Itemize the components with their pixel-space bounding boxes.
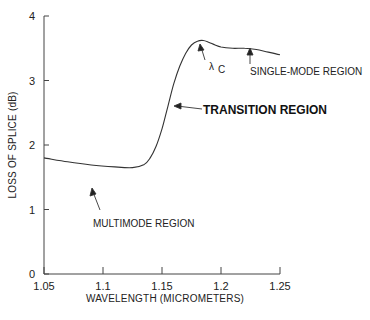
y-axis-label: LOSS OF SPLICE (dB) — [7, 91, 18, 198]
multimode-region-label: MULTIMODE REGION — [93, 218, 194, 229]
arrowhead-icon — [198, 44, 204, 51]
chart-canvas: 01234 1.051.11.151.21.25 LOSS OF SPLICE … — [0, 0, 370, 320]
x-tick-label: 1.15 — [151, 280, 172, 292]
arrowhead-icon — [90, 188, 96, 196]
y-tick-label: 4 — [29, 10, 35, 22]
y-tick-label: 0 — [29, 268, 35, 280]
y-tick-label: 1 — [29, 204, 35, 216]
y-ticks: 01234 — [29, 10, 49, 280]
transition-region-label: TRANSITION REGION — [203, 103, 327, 117]
arrowhead-icon — [174, 103, 181, 109]
x-axis-label: WAVELENGTH (MICROMETERS) — [86, 293, 244, 304]
annotation-arrows — [90, 44, 253, 210]
lambda-subscript: C — [218, 64, 225, 75]
x-tick-label: 1.05 — [33, 280, 54, 292]
x-tick-label: 1.1 — [95, 280, 110, 292]
x-tick-label: 1.2 — [213, 280, 228, 292]
y-tick-label: 3 — [29, 75, 35, 87]
x-ticks: 1.051.11.151.21.25 — [33, 267, 290, 292]
y-tick-label: 2 — [29, 139, 35, 151]
single-mode-region-label: SINGLE-MODE REGION — [250, 66, 362, 77]
axes — [44, 16, 280, 274]
x-tick-label: 1.25 — [269, 280, 290, 292]
lambda-symbol: λ — [209, 61, 214, 72]
